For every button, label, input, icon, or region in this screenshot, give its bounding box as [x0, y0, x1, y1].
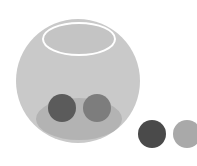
inside-ball-dark: [48, 94, 76, 122]
outside-ball-dark: [138, 120, 166, 148]
outside-ball-light: [173, 120, 197, 148]
bowl-diagram: [0, 0, 197, 166]
bowl-opening-rim: [43, 23, 115, 55]
inside-ball-medium: [83, 94, 111, 122]
